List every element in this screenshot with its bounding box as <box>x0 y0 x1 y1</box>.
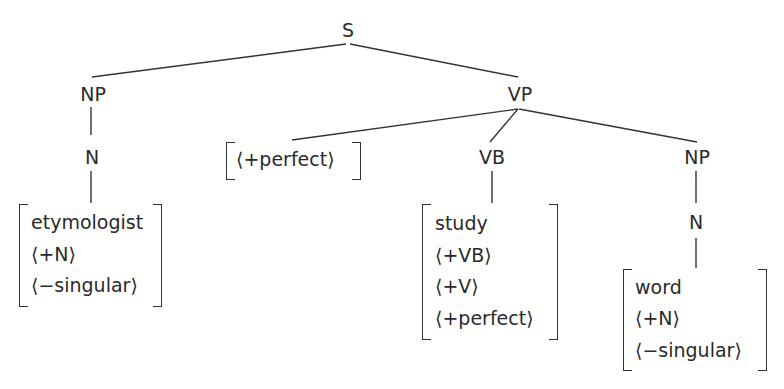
node-vp: VP <box>508 85 532 104</box>
feature-plus-vb: ⟨+VB⟩ <box>435 246 492 265</box>
feature-plus-n: ⟨+N⟩ <box>31 245 76 264</box>
feature-matrix-etymologist: etymologist ⟨+N⟩ ⟨−singular⟩ <box>19 204 162 307</box>
edge-s-vp <box>350 44 518 77</box>
edge-s-np <box>92 44 346 77</box>
lexeme-study: study <box>435 214 488 233</box>
lexeme-etymologist: etymologist <box>31 213 143 232</box>
feature-matrix-aspect: ⟨+perfect⟩ <box>226 142 361 180</box>
lexeme-word: word <box>635 278 682 297</box>
node-s: S <box>342 21 354 40</box>
feature-plus-v: ⟨+V⟩ <box>435 277 479 296</box>
edge-vp-perfect <box>292 109 518 140</box>
feature-minus-singular: ⟨−singular⟩ <box>635 341 742 360</box>
feature-matrix-study: study ⟨+VB⟩ ⟨+V⟩ ⟨+perfect⟩ <box>422 204 558 340</box>
feature-matrix-word: word ⟨+N⟩ ⟨−singular⟩ <box>623 269 767 371</box>
node-n-object: N <box>689 213 703 232</box>
edge-vp-np <box>519 109 697 142</box>
edge-vp-vb <box>490 109 518 142</box>
node-np-object: NP <box>684 148 710 167</box>
node-vb: VB <box>479 148 505 167</box>
feature-plus-perfect: ⟨+perfect⟩ <box>435 309 534 328</box>
feature-perfect: ⟨+perfect⟩ <box>236 150 335 169</box>
node-n-subject: N <box>85 148 99 167</box>
node-np-subject: NP <box>80 85 106 104</box>
feature-minus-singular: ⟨−singular⟩ <box>31 276 138 295</box>
feature-plus-n: ⟨+N⟩ <box>635 309 680 328</box>
